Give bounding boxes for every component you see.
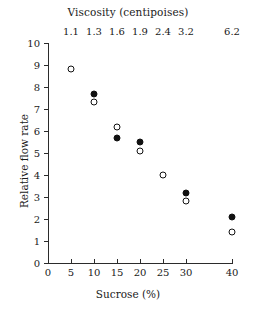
y-axis-tick-label: 2 [14, 214, 40, 225]
x-axis-tick-label: 20 [134, 267, 147, 278]
top-axis-tick-label: 1.6 [109, 26, 125, 37]
y-axis-tick-label: 3 [14, 192, 40, 203]
y-axis-tick-label: 5 [14, 148, 40, 159]
x-axis-tick [71, 259, 72, 264]
data-point-filled-circle [183, 189, 190, 196]
x-axis-tick [94, 259, 95, 264]
x-axis-tick-label: 40 [226, 267, 239, 278]
y-axis-tick [44, 109, 49, 110]
y-axis-tick-label: 7 [14, 104, 40, 115]
y-axis-tick-label: 0 [14, 258, 40, 269]
top-axis-title: Viscosity (centipoises) [0, 6, 256, 18]
x-axis-tick-label: 15 [111, 267, 124, 278]
top-axis-title-text: Viscosity (centipoises) [68, 6, 189, 18]
chart-figure: Viscosity (centipoises) 1.11.31.61.92.43… [0, 0, 256, 318]
data-point-open-circle [91, 99, 98, 106]
x-axis-tick-label: 30 [180, 267, 193, 278]
top-axis-tick-label: 3.2 [178, 26, 194, 37]
y-axis-tick [44, 153, 49, 154]
x-axis-tick [232, 259, 233, 264]
top-axis-tick-label: 2.4 [155, 26, 171, 37]
x-axis-label: Sucrose (%) [0, 288, 256, 300]
y-axis-tick [44, 43, 49, 44]
y-axis-tick [44, 65, 49, 66]
data-point-open-circle [137, 147, 144, 154]
y-axis-tick [44, 241, 49, 242]
x-axis-tick [140, 259, 141, 264]
y-axis-label: Relative flow rate [18, 96, 30, 226]
top-axis-tick-label: 1.9 [132, 26, 148, 37]
top-axis-tick-label: 1.3 [86, 26, 102, 37]
y-axis-tick [44, 219, 49, 220]
data-point-open-circle [229, 229, 236, 236]
y-axis-tick-label: 1 [14, 236, 40, 247]
top-axis-tick-label: 6.2 [224, 26, 240, 37]
x-axis-tick [117, 259, 118, 264]
x-axis-tick [163, 259, 164, 264]
data-point-filled-circle [91, 90, 98, 97]
data-point-open-circle [183, 198, 190, 205]
y-axis-tick-label: 8 [14, 82, 40, 93]
data-point-filled-circle [137, 139, 144, 146]
y-axis-tick-label: 10 [14, 38, 40, 49]
top-axis-tick-label: 1.1 [63, 26, 79, 37]
y-axis-tick-label: 9 [14, 60, 40, 71]
data-point-open-circle [114, 123, 121, 130]
data-point-filled-circle [229, 213, 236, 220]
y-axis-tick-label: 6 [14, 126, 40, 137]
y-axis-tick [44, 197, 49, 198]
y-axis-tick [44, 131, 49, 132]
x-axis-tick [48, 259, 49, 264]
y-axis-tick [44, 87, 49, 88]
data-point-open-circle [68, 66, 75, 73]
y-axis-tick-label: 4 [14, 170, 40, 181]
y-axis-tick [44, 175, 49, 176]
data-point-open-circle [160, 172, 167, 179]
x-axis-tick-label: 25 [157, 267, 170, 278]
x-axis-tick-label: 10 [88, 267, 101, 278]
x-axis-tick-label: 0 [45, 267, 51, 278]
x-axis-tick-label: 5 [68, 267, 74, 278]
x-axis-tick [186, 259, 187, 264]
data-point-filled-circle [114, 134, 121, 141]
